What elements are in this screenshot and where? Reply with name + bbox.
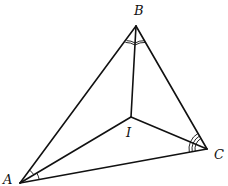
segment-bi [131,26,136,117]
label-i: I [125,125,132,140]
label-b: B [133,3,144,18]
label-c: C [214,147,224,162]
label-a: A [2,172,12,186]
segment-ab [20,26,136,183]
triangle-diagram: B A C I [0,0,228,186]
segment-bc [136,26,207,149]
